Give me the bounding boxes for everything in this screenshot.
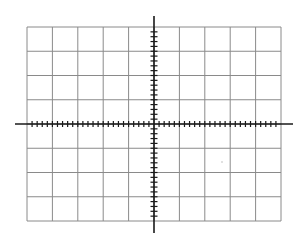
axes	[15, 16, 293, 233]
coordinate-grid	[0, 0, 307, 246]
artifact-dots	[221, 161, 223, 163]
artifact-dot	[221, 161, 223, 163]
